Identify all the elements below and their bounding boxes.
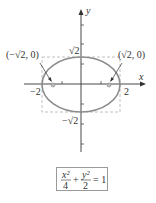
left-focus-point xyxy=(51,83,55,87)
right-vertex-label: 2 xyxy=(124,86,129,97)
equation-rhs: = 1 xyxy=(93,174,106,185)
equation-term2-numerator: y² xyxy=(81,169,90,180)
equation-plus: + xyxy=(73,174,79,185)
right-leader-arrow-icon xyxy=(110,77,114,82)
equation-term2-denominator: 2 xyxy=(83,180,88,191)
bottom-vertex-label: −√2 xyxy=(62,115,78,126)
axis-ticks xyxy=(62,25,101,144)
x-axis-label: x xyxy=(138,71,144,82)
equation-term1-numerator: x² xyxy=(61,169,70,180)
x-axis-arrow-icon xyxy=(140,82,146,87)
left-vertex-label: −2 xyxy=(30,86,41,97)
left-leader-arrow-icon xyxy=(48,77,52,82)
y-axis-arrow-icon xyxy=(79,9,84,15)
right-focus-point xyxy=(107,83,111,87)
left-focus-label: (−√2, 0) xyxy=(6,49,39,61)
equation-term1-denominator: 4 xyxy=(63,180,68,191)
top-vertex-label: √2 xyxy=(69,45,80,56)
equation-box: x² 4 + y² 2 = 1 xyxy=(56,167,108,191)
right-focus-label: (√2, 0) xyxy=(118,49,145,61)
y-axis-label: y xyxy=(85,5,91,16)
